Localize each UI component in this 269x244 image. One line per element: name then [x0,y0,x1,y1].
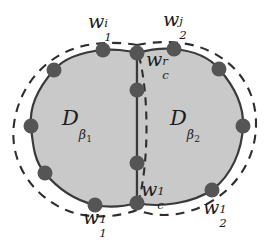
region-label-left: Dβ1 [62,108,101,129]
region-label-right-symbol: D [170,106,187,130]
dot-right-mid [236,119,251,134]
dot-left-mid [24,119,39,134]
label-w1i-sub: 1 [104,32,112,44]
label-w11-base: w [83,206,99,228]
label-w2j-sup: j [179,16,183,28]
label-w1i: wi1 [88,12,116,31]
dot-right-upper [212,62,227,77]
label-wcr: wrc [146,50,174,69]
label-w1i-base: w [88,10,104,32]
label-wc1-sup: 1 [157,186,165,198]
label-wcr-sup: r [162,56,168,68]
figure-root: wi1 wj2 wrc w1c w11 w12 Dβ1 Dβ2 [0,0,269,244]
label-w11-sub: 1 [99,228,107,240]
dot-center-upper-mid [130,83,145,98]
label-w21-base: w [203,196,219,218]
dot-left-top-outer [96,43,111,58]
label-w2j-base: w [163,8,179,30]
label-w11-sup: 1 [99,214,107,226]
region-label-right-beta: β2 [187,129,200,142]
label-w2j-sub: 2 [179,30,187,42]
dot-center-top [130,46,145,61]
dot-left-upper [47,63,62,78]
region-label-left-index: 1 [86,134,92,144]
label-w21: w12 [203,198,231,217]
label-w21-sup: 1 [219,204,227,216]
label-wc1: w1c [141,180,169,199]
region-label-left-symbol: D [62,106,79,130]
label-wc1-sub: c [157,200,164,212]
region-label-left-beta: β1 [79,129,92,142]
label-wcr-base: w [146,48,162,70]
label-w11: w11 [83,208,111,227]
label-w2j: wj2 [163,10,191,29]
label-wcr-sub: c [162,70,169,82]
label-wc1-base: w [141,178,157,200]
label-w21-sub: 2 [219,218,227,230]
dot-center-lower-mid [130,156,145,171]
region-label-right: Dβ2 [170,108,209,129]
label-w1i-sup: i [104,18,108,30]
region-label-right-index: 2 [194,134,200,144]
dot-left-lower [38,166,53,181]
